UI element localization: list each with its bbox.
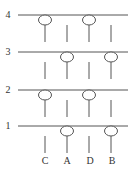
circle-3-A [61,52,74,62]
circle-2-C [39,90,52,100]
circle-4-D [83,15,96,25]
circle-2-D [83,90,96,100]
circle-3-B [105,52,118,62]
column-label-d: D [86,156,93,166]
circle-4-C [39,15,52,25]
circle-1-B [105,126,118,136]
diagram-canvas [0,0,138,176]
column-label-c: C [42,156,49,166]
column-label-b: B [109,156,116,166]
row-label-3: 3 [6,47,11,57]
column-label-a: A [63,156,70,166]
row-label-2: 2 [6,85,11,95]
pin-switch-diagram: 4 3 2 1 C A D B [0,0,138,176]
row-label-4: 4 [6,10,11,20]
row-label-1: 1 [6,121,11,131]
circle-1-A [61,126,74,136]
